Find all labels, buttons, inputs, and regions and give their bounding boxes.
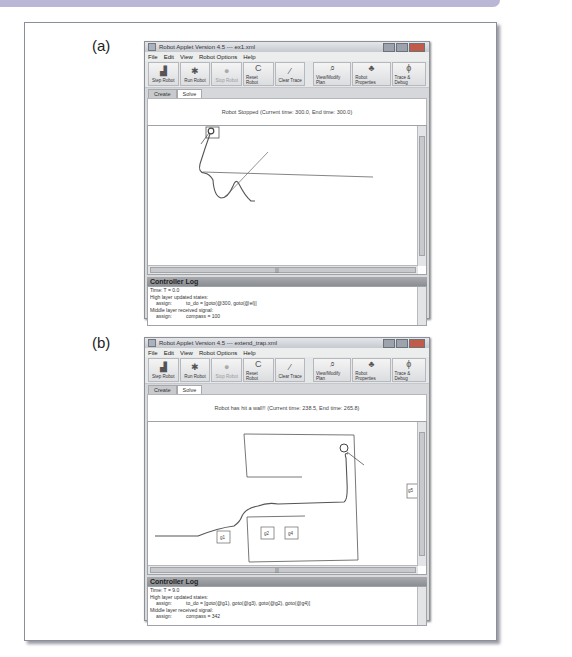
menu-bar: File Edit View Robot Options Help [145, 348, 429, 357]
robot-canvas[interactable]: g1 g2 g4 g5 ||| [147, 421, 427, 575]
trace-debug-button[interactable]: ϕTrace & Debug [392, 62, 426, 86]
robot-trace-drawing [148, 126, 426, 274]
run-robot-button[interactable]: ✱Run Robot [180, 358, 211, 382]
stop-robot-button[interactable]: ●Stop Robot [211, 358, 242, 382]
close-button[interactable] [409, 43, 425, 52]
robot-icon: ♣ [368, 63, 374, 75]
menu-help[interactable]: Help [243, 350, 255, 356]
goal-label: g2 [264, 531, 270, 536]
toolbar: ▟Step Robot ✱Run Robot ●Stop Robot CRese… [145, 357, 429, 384]
clear-trace-button[interactable]: ⁄Clear Trace [275, 358, 306, 382]
running-man-icon: ✱ [191, 66, 199, 78]
stop-circle-icon: ● [224, 362, 229, 374]
scroll-grip-icon: ||| [275, 567, 279, 573]
tab-solve[interactable]: Solve [177, 89, 203, 98]
tab-create[interactable]: Create [148, 385, 177, 394]
panel-label-a: (a) [92, 37, 110, 54]
goal-label: g1 [220, 535, 226, 540]
goal-label: g5 [408, 488, 414, 493]
log-scrollbar[interactable] [417, 287, 426, 325]
menu-help[interactable]: Help [243, 54, 255, 60]
vertical-scroll-thumb[interactable] [419, 136, 425, 256]
tab-solve[interactable]: Solve [177, 385, 203, 394]
scroll-grip-icon: ||| [275, 267, 279, 273]
window-title: Robot Applet Version 4.5 --- ex1.xml [159, 44, 255, 50]
bug-icon: ϕ [406, 359, 411, 371]
log-line: assign:compass = 342 [150, 613, 426, 620]
menu-edit[interactable]: Edit [164, 54, 174, 60]
menu-robot-options[interactable]: Robot Options [199, 54, 237, 60]
menu-robot-options[interactable]: Robot Options [199, 350, 237, 356]
close-button[interactable] [409, 339, 425, 348]
clear-trace-button[interactable]: ⁄Clear Trace [275, 62, 306, 86]
controller-log-header: Controller Log [147, 577, 427, 586]
menu-file[interactable]: File [148, 350, 158, 356]
bar-chart-icon: ▟ [160, 66, 167, 78]
menu-bar: File Edit View Robot Options Help [145, 52, 429, 61]
robot-applet-window-b: Robot Applet Version 4.5 --- extend_trap… [144, 337, 430, 621]
maximize-button[interactable] [396, 43, 408, 52]
window-controls [382, 339, 425, 348]
pen-icon: ⁄ [289, 66, 291, 78]
window-controls [382, 43, 425, 52]
header-band [0, 0, 500, 7]
menu-edit[interactable]: Edit [164, 350, 174, 356]
run-robot-button[interactable]: ✱Run Robot [180, 62, 211, 86]
title-bar[interactable]: Robot Applet Version 4.5 --- extend_trap… [145, 338, 429, 348]
vertical-scrollbar[interactable] [417, 126, 426, 266]
stop-circle-icon: ● [224, 66, 229, 78]
reset-robot-button[interactable]: CReset Robot [243, 358, 274, 382]
magnifier-icon: ⌕ [330, 359, 335, 371]
vertical-scrollbar[interactable] [417, 422, 426, 566]
minimize-button[interactable] [383, 43, 395, 52]
log-line: assign:compass = 100 [150, 313, 426, 320]
trace-debug-button[interactable]: ϕTrace & Debug [392, 358, 426, 382]
status-message: Robot Stopped (Current time: 300.0, End … [147, 98, 427, 125]
magnifier-icon: ⌕ [330, 63, 335, 75]
app-icon [148, 339, 156, 347]
controller-log[interactable]: Time: T = 9.0 High layer updated states:… [147, 586, 427, 626]
status-message: Robot has hit a wall!! (Current time: 23… [147, 394, 427, 421]
robot-properties-button[interactable]: ♣Robot Properties [352, 62, 390, 86]
reset-icon: C [255, 63, 262, 75]
tab-bar: Create Solve [145, 88, 429, 98]
log-scrollbar[interactable] [417, 587, 426, 625]
robot-canvas[interactable]: ||| [147, 125, 427, 275]
horizontal-scroll-thumb[interactable] [150, 267, 416, 273]
view-modify-plan-button[interactable]: ⌕View/Modify Plan [313, 358, 351, 382]
toolbar-separator [306, 62, 312, 86]
view-modify-plan-button[interactable]: ⌕View/Modify Plan [313, 62, 351, 86]
robot-properties-button[interactable]: ♣Robot Properties [352, 358, 390, 382]
panel-label-b: (b) [92, 334, 110, 351]
stop-robot-button[interactable]: ●Stop Robot [211, 62, 242, 86]
running-man-icon: ✱ [191, 362, 199, 374]
horizontal-scrollbar[interactable]: ||| [148, 265, 418, 274]
robot-applet-window-a: Robot Applet Version 4.5 --- ex1.xml Fil… [144, 41, 430, 319]
horizontal-scroll-thumb[interactable] [150, 567, 416, 573]
step-robot-button[interactable]: ▟Step Robot [148, 358, 179, 382]
horizontal-scrollbar[interactable]: ||| [148, 565, 418, 574]
robot-trace-drawing: g1 g2 g4 g5 [148, 422, 426, 574]
reset-icon: C [255, 359, 262, 371]
menu-file[interactable]: File [148, 54, 158, 60]
pen-icon: ⁄ [289, 362, 291, 374]
menu-view[interactable]: View [180, 350, 193, 356]
maximize-button[interactable] [396, 339, 408, 348]
goal-label: g4 [288, 531, 294, 536]
title-bar[interactable]: Robot Applet Version 4.5 --- ex1.xml [145, 42, 429, 52]
window-title: Robot Applet Version 4.5 --- extend_trap… [159, 340, 277, 346]
menu-view[interactable]: View [180, 54, 193, 60]
minimize-button[interactable] [383, 339, 395, 348]
controller-log[interactable]: Time: T = 0.0 High layer updated states:… [147, 286, 427, 326]
bar-chart-icon: ▟ [160, 362, 167, 374]
toolbar: ▟Step Robot ✱Run Robot ●Stop Robot CRese… [145, 61, 429, 88]
tab-bar: Create Solve [145, 384, 429, 394]
controller-log-header: Controller Log [147, 277, 427, 286]
robot-icon: ♣ [368, 359, 374, 371]
vertical-scroll-thumb[interactable] [419, 432, 425, 556]
toolbar-separator [306, 358, 312, 382]
tab-create[interactable]: Create [148, 89, 177, 98]
reset-robot-button[interactable]: CReset Robot [243, 62, 274, 86]
step-robot-button[interactable]: ▟Step Robot [148, 62, 179, 86]
bug-icon: ϕ [406, 63, 411, 75]
